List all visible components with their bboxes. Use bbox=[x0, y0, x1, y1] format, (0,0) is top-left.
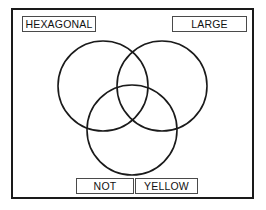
label-large[interactable]: LARGE bbox=[172, 16, 247, 32]
diagram-frame bbox=[11, 8, 254, 199]
label-hexagonal[interactable]: HEXAGONAL bbox=[22, 16, 96, 32]
label-not[interactable]: NOT bbox=[76, 178, 134, 194]
venn-diagram-canvas: HEXAGONAL LARGE NOT YELLOW bbox=[0, 0, 266, 210]
label-yellow[interactable]: YELLOW bbox=[135, 178, 198, 194]
